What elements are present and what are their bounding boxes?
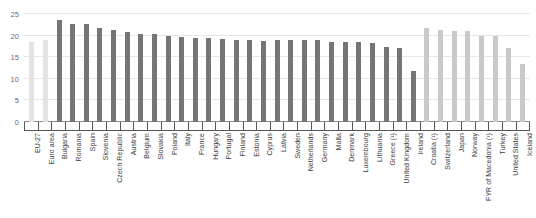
x-label-slot: Croatia (¹) bbox=[420, 133, 434, 217]
x-label-slot: Poland bbox=[161, 133, 175, 217]
x-label-slot: Turkey bbox=[489, 133, 503, 217]
x-label-slot: Cyprus bbox=[256, 133, 270, 217]
x-label-slot: France bbox=[188, 133, 202, 217]
x-tick bbox=[80, 122, 94, 130]
bar-slot bbox=[229, 14, 243, 122]
bar-slot bbox=[161, 14, 175, 122]
x-tick bbox=[39, 122, 53, 130]
x-label-slot: Czech Republic bbox=[106, 133, 120, 217]
x-label-slot: FYR of Macedonia (¹) bbox=[475, 133, 489, 217]
bar-slot bbox=[407, 14, 421, 122]
bar-slot bbox=[243, 14, 257, 122]
x-tick bbox=[52, 122, 66, 130]
bar bbox=[315, 40, 320, 122]
x-label-slot: Norway bbox=[462, 133, 476, 217]
x-label-slot: Portugal bbox=[215, 133, 229, 217]
x-tick bbox=[353, 122, 367, 130]
y-tick-label: 15 bbox=[10, 53, 19, 62]
x-tick bbox=[435, 122, 449, 130]
bar-slot bbox=[447, 14, 461, 122]
bar bbox=[179, 37, 184, 122]
bar-slot bbox=[393, 14, 407, 122]
x-label-slot: Slovenia bbox=[92, 133, 106, 217]
x-tick bbox=[93, 122, 107, 130]
x-tick bbox=[134, 122, 148, 130]
bar-slot bbox=[379, 14, 393, 122]
bar-slot bbox=[25, 14, 39, 122]
bar bbox=[329, 42, 334, 122]
x-tick bbox=[517, 122, 530, 130]
x-axis-ticks bbox=[24, 122, 530, 131]
bar-slot bbox=[134, 14, 148, 122]
bar bbox=[302, 40, 307, 122]
bar-slot bbox=[325, 14, 339, 122]
x-label-slot: Malta bbox=[325, 133, 339, 217]
x-tick bbox=[312, 122, 326, 130]
bar-slot bbox=[52, 14, 66, 122]
bar bbox=[452, 31, 457, 122]
bar bbox=[288, 40, 293, 122]
x-tick bbox=[298, 122, 312, 130]
x-label-slot: Finland bbox=[229, 133, 243, 217]
bar bbox=[397, 48, 402, 122]
x-label-slot: Germany bbox=[311, 133, 325, 217]
x-label-slot: Estonia bbox=[243, 133, 257, 217]
x-tick bbox=[148, 122, 162, 130]
bar bbox=[465, 31, 470, 122]
x-tick bbox=[230, 122, 244, 130]
bar bbox=[234, 40, 239, 123]
bar-slot bbox=[366, 14, 380, 122]
x-tick bbox=[244, 122, 258, 130]
bar bbox=[220, 39, 225, 122]
bar bbox=[29, 42, 34, 122]
bar-chart: 0510152025 EU-27Euro areaBulgariaRomania… bbox=[0, 0, 536, 218]
bar bbox=[356, 42, 361, 122]
bar-slot bbox=[120, 14, 134, 122]
x-tick bbox=[421, 122, 435, 130]
bar bbox=[97, 28, 102, 122]
x-tick bbox=[121, 122, 135, 130]
x-tick bbox=[175, 122, 189, 130]
bar bbox=[43, 40, 48, 123]
x-tick bbox=[380, 122, 394, 130]
bar bbox=[57, 20, 62, 122]
bar-slot bbox=[39, 14, 53, 122]
bar bbox=[384, 47, 389, 122]
bar-slot bbox=[434, 14, 448, 122]
x-tick bbox=[66, 122, 80, 130]
x-label-slot: United States bbox=[503, 133, 517, 217]
y-tick-label: 25 bbox=[10, 10, 19, 19]
x-label-slot: Hungary bbox=[202, 133, 216, 217]
bar-slot bbox=[311, 14, 325, 122]
x-tick bbox=[394, 122, 408, 130]
bar bbox=[493, 36, 498, 122]
x-label-slot: Luxembourg bbox=[352, 133, 366, 217]
x-label-slot: Iceland bbox=[516, 133, 530, 217]
y-tick-label: 10 bbox=[10, 74, 19, 83]
x-tick bbox=[476, 122, 490, 130]
x-tick bbox=[448, 122, 462, 130]
x-tick bbox=[162, 122, 176, 130]
x-label-slot: Austria bbox=[120, 133, 134, 217]
bar bbox=[70, 24, 75, 122]
bar-slot bbox=[80, 14, 94, 122]
x-label-slot: Switzerland bbox=[434, 133, 448, 217]
x-tick bbox=[257, 122, 271, 130]
plot-area bbox=[24, 14, 530, 122]
x-tick bbox=[462, 122, 476, 130]
x-tick bbox=[407, 122, 421, 130]
x-tick bbox=[503, 122, 517, 130]
bar-slot bbox=[352, 14, 366, 122]
bar bbox=[193, 38, 198, 122]
x-label-slot: Netherlands bbox=[297, 133, 311, 217]
x-label-slot: United Kingdom bbox=[393, 133, 407, 217]
x-label-slot: Belgium bbox=[133, 133, 147, 217]
x-label-slot: Japan bbox=[448, 133, 462, 217]
y-tick-label: 0 bbox=[15, 118, 19, 127]
bar bbox=[275, 40, 280, 122]
x-tick bbox=[203, 122, 217, 130]
x-tick bbox=[325, 122, 339, 130]
bar-slot bbox=[175, 14, 189, 122]
bar-slot bbox=[257, 14, 271, 122]
bar bbox=[424, 28, 429, 122]
